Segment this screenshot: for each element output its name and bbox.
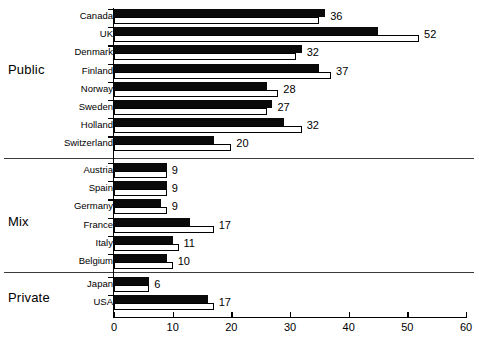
category-label: Sweden <box>79 101 113 113</box>
category-label: Italy <box>96 237 113 249</box>
bar-filled <box>114 254 167 262</box>
table-row: Finland37 <box>0 63 479 81</box>
bar-filled <box>114 236 173 244</box>
x-axis-tick-label: 50 <box>392 321 422 334</box>
bar-outlined <box>114 108 267 115</box>
category-label: Finland <box>82 65 113 77</box>
x-axis-tick-label: 0 <box>99 321 129 334</box>
table-row: Holland32 <box>0 117 479 135</box>
x-axis-tick <box>231 312 232 318</box>
category-label: Japan <box>87 278 113 290</box>
category-label: Switzerland <box>64 137 113 149</box>
bar-outlined <box>114 72 331 79</box>
bar-outlined <box>114 285 149 292</box>
bar-chart: Public Mix Private Canada36UK52Denmark32… <box>0 0 479 346</box>
bar-value-label: 10 <box>178 255 190 268</box>
bar-outlined <box>114 303 214 310</box>
table-row: Canada36 <box>0 8 479 26</box>
bar-outlined <box>114 90 278 97</box>
category-label: Belgium <box>79 255 113 267</box>
table-row: Sweden27 <box>0 99 479 117</box>
bar-value-label: 32 <box>307 119 319 132</box>
table-row: Italy11 <box>0 235 479 253</box>
table-row: Denmark32 <box>0 44 479 62</box>
x-axis-tick-label: 10 <box>158 321 188 334</box>
x-axis-tick <box>466 312 467 318</box>
category-label: Spain <box>89 182 113 194</box>
bar-value-label: 9 <box>172 200 178 213</box>
bar-value-label: 36 <box>330 10 342 23</box>
bar-value-label: 6 <box>154 278 160 291</box>
bar-outlined <box>114 171 167 178</box>
bar-filled <box>114 45 302 53</box>
bar-value-label: 28 <box>283 83 295 96</box>
x-axis-tick <box>290 312 291 318</box>
category-label: UK <box>100 28 113 40</box>
bar-outlined <box>114 226 214 233</box>
bar-value-label: 11 <box>184 237 195 250</box>
category-label: USA <box>93 296 113 308</box>
bar-filled <box>114 277 149 285</box>
bar-outlined <box>114 262 173 269</box>
bar-filled <box>114 295 208 303</box>
separator-public-mix <box>4 158 474 159</box>
bar-outlined <box>114 244 179 251</box>
bar-filled <box>114 163 167 171</box>
table-row: Switzerland20 <box>0 135 479 153</box>
bar-outlined <box>114 126 302 133</box>
x-axis-tick <box>173 312 174 318</box>
bar-filled <box>114 82 267 90</box>
bar-filled <box>114 136 214 144</box>
category-label: Austria <box>83 164 113 176</box>
bar-outlined <box>114 53 296 60</box>
table-row: France17 <box>0 217 479 235</box>
x-axis-tick-label: 60 <box>451 321 479 334</box>
table-row: UK52 <box>0 26 479 44</box>
category-label: Germany <box>74 200 113 212</box>
bar-filled <box>114 9 325 17</box>
x-axis-tick-label: 20 <box>216 321 246 334</box>
bar-value-label: 37 <box>336 65 348 78</box>
table-row: Belgium10 <box>0 253 479 271</box>
bar-outlined <box>114 144 231 151</box>
table-row: USA17 <box>0 294 479 312</box>
x-axis-tick <box>407 312 408 318</box>
table-row: Austria9 <box>0 162 479 180</box>
table-row: Norway28 <box>0 81 479 99</box>
bar-filled <box>114 181 167 189</box>
x-axis-tick <box>114 312 115 318</box>
bar-outlined <box>114 207 167 214</box>
bar-value-label: 17 <box>219 296 231 309</box>
bar-outlined <box>114 35 419 42</box>
x-axis-tick-label: 40 <box>334 321 364 334</box>
bar-filled <box>114 100 272 108</box>
category-label: Norway <box>81 83 113 95</box>
x-axis-tick-label: 30 <box>275 321 305 334</box>
bar-value-label: 9 <box>172 182 178 195</box>
table-row: Germany9 <box>0 198 479 216</box>
bar-outlined <box>114 17 319 24</box>
bar-filled <box>114 118 284 126</box>
category-label: Denmark <box>74 46 113 58</box>
bar-filled <box>114 199 161 207</box>
bar-value-label: 9 <box>172 164 178 177</box>
x-axis-tick <box>349 312 350 318</box>
category-label: Canada <box>80 10 113 22</box>
bar-value-label: 20 <box>236 137 248 150</box>
bar-value-label: 27 <box>277 101 289 114</box>
category-label: Holland <box>81 119 113 131</box>
table-row: Japan6 <box>0 276 479 294</box>
category-label: France <box>83 219 113 231</box>
bar-filled <box>114 218 190 226</box>
table-row: Spain9 <box>0 180 479 198</box>
bar-filled <box>114 27 378 35</box>
separator-mix-private <box>4 272 474 273</box>
bar-value-label: 52 <box>424 28 436 41</box>
bar-outlined <box>114 189 167 196</box>
bar-filled <box>114 64 319 72</box>
bar-value-label: 17 <box>219 219 231 232</box>
bar-value-label: 32 <box>307 46 319 59</box>
